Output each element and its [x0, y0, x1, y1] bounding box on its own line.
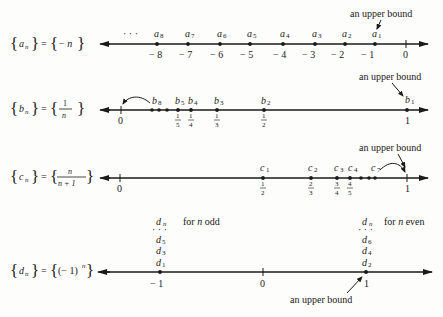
annotation-arrow	[377, 20, 381, 29]
svg-text:4: 4	[189, 121, 193, 129]
row-d: { d n } = { (− 1) n } − 1 0 1 dn · · · d…	[10, 216, 432, 305]
svg-text:− 1: − 1	[150, 278, 163, 289]
svg-text:a: a	[154, 28, 159, 39]
point-c2: c2 2 3	[308, 162, 318, 197]
svg-text:a: a	[372, 28, 377, 39]
svg-text:1: 1	[411, 98, 415, 106]
svg-text:− 1: − 1	[361, 49, 374, 60]
seq-name: a	[19, 38, 24, 49]
row-c: { c n } = { n n + 1 } 0 c1 1 2 c2 2 3	[10, 142, 428, 197]
svg-text:2: 2	[262, 121, 266, 129]
svg-text:for n odd: for n odd	[183, 216, 220, 227]
svg-text:n: n	[68, 167, 72, 176]
even-terms-stack: dn · · · d6 d4 d2 for n even	[358, 216, 425, 269]
svg-text:n + 1: n + 1	[58, 179, 75, 188]
svg-text:c: c	[19, 171, 24, 182]
svg-text:2: 2	[267, 99, 271, 107]
sequence-diagram: { a n } = { − n } · · · a8 − 8 a7 − 7 a6…	[0, 0, 443, 317]
svg-text:1: 1	[378, 32, 382, 40]
point-c3: c3 3 4	[334, 162, 344, 197]
svg-text:5: 5	[176, 121, 180, 129]
seq-formula: − n	[58, 38, 72, 49]
svg-text:1: 1	[189, 112, 193, 120]
svg-text:a: a	[185, 28, 190, 39]
svg-text:{: {	[50, 261, 58, 280]
svg-text:b: b	[152, 95, 157, 106]
svg-text:b: b	[405, 94, 410, 105]
svg-text:6: 6	[223, 32, 227, 40]
svg-text:2: 2	[261, 189, 265, 197]
svg-text:1: 1	[176, 112, 180, 120]
svg-text:}: }	[31, 261, 39, 280]
svg-text:6: 6	[368, 238, 372, 246]
tick-one: 1	[405, 183, 410, 194]
svg-text:4: 4	[354, 166, 358, 174]
svg-text:3: 3	[215, 121, 219, 129]
svg-text:1: 1	[162, 261, 166, 269]
svg-text:1: 1	[261, 180, 265, 188]
svg-text:}: }	[31, 99, 39, 118]
upper-bound-annotation: an upper bound	[359, 71, 421, 82]
svg-text:}: }	[31, 34, 39, 53]
svg-text:2: 2	[348, 32, 352, 40]
svg-text:3: 3	[318, 32, 322, 40]
svg-text:− 5: − 5	[240, 49, 253, 60]
limit-arrow	[123, 97, 150, 104]
point-b3: b3 1 3	[214, 95, 224, 129]
svg-text:=: =	[41, 171, 47, 182]
row-a: { a n } = { − n } · · · a8 − 8 a7 − 7 a6…	[10, 8, 428, 60]
point-b4: b4 1 4	[188, 95, 198, 129]
svg-text:7: 7	[191, 32, 195, 40]
svg-text:4: 4	[348, 180, 352, 188]
ellipsis: · · ·	[123, 28, 138, 39]
svg-text:c: c	[334, 162, 339, 173]
svg-text:− 6: − 6	[210, 49, 223, 60]
svg-text:3: 3	[340, 166, 344, 174]
svg-text:=: =	[41, 265, 47, 276]
svg-text:− 3: − 3	[302, 49, 315, 60]
svg-text:c: c	[308, 162, 313, 173]
tick-zero: 0	[403, 49, 408, 60]
svg-text:c: c	[260, 162, 265, 173]
svg-text:a: a	[247, 28, 252, 39]
svg-text:{: {	[10, 261, 18, 280]
svg-text:a: a	[280, 28, 285, 39]
point-one: 1	[364, 270, 369, 289]
svg-text:b: b	[19, 103, 24, 114]
row-c-formula: { c n } = { n n + 1 }	[10, 167, 94, 188]
svg-text:− 7: − 7	[179, 49, 192, 60]
annotation-arrow	[347, 277, 362, 293]
svg-text:1: 1	[364, 278, 369, 289]
upper-bound-annotation: an upper bound	[350, 8, 412, 19]
row-a-formula: { a n } = { − n }	[10, 34, 85, 53]
point-b2: b2 1 2	[261, 95, 271, 129]
svg-text:b: b	[188, 95, 193, 106]
svg-text:1: 1	[215, 112, 219, 120]
svg-text:for n even: for n even	[384, 216, 425, 227]
svg-text:b: b	[175, 95, 180, 106]
svg-text:4: 4	[368, 249, 372, 257]
svg-text:4: 4	[194, 99, 198, 107]
svg-text:1: 1	[405, 115, 410, 126]
svg-text:5: 5	[348, 189, 352, 197]
svg-text:8: 8	[160, 32, 164, 40]
svg-text:2: 2	[309, 180, 313, 188]
svg-text:8: 8	[158, 99, 162, 107]
point-c1: c1 1 2	[260, 162, 270, 197]
svg-text:c: c	[371, 162, 376, 173]
svg-text:5: 5	[253, 32, 257, 40]
point-c4: c4 4 5	[347, 162, 358, 197]
svg-text:1: 1	[266, 166, 270, 174]
svg-text:{: {	[10, 99, 18, 118]
tick-zero: 0	[117, 183, 122, 194]
svg-text:− 4: − 4	[273, 49, 286, 60]
svg-text:n: n	[25, 176, 29, 184]
svg-text:n: n	[25, 108, 29, 116]
svg-text:3: 3	[220, 99, 224, 107]
tick-zero: 0	[118, 115, 123, 126]
svg-text:{: {	[10, 34, 18, 53]
svg-text:3: 3	[162, 249, 166, 257]
svg-text:n: n	[62, 111, 66, 120]
svg-text:1: 1	[63, 99, 67, 108]
svg-text:(− 1): (− 1)	[58, 265, 78, 277]
